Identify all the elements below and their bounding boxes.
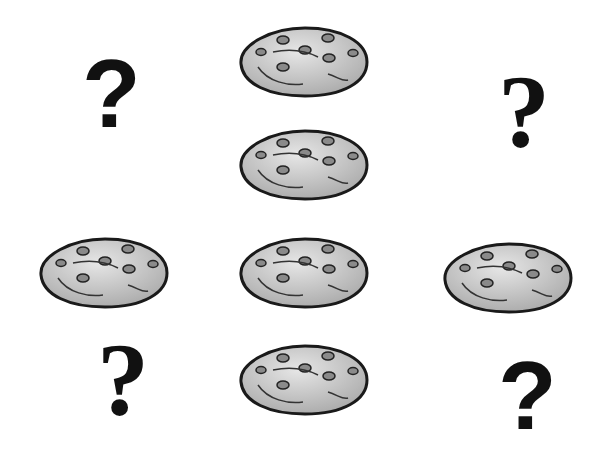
cookie-icon: [33, 233, 173, 313]
question-mark-top-right: ?: [498, 60, 550, 164]
cookie-icon: [437, 238, 577, 318]
question-mark-top-left: ?: [82, 46, 141, 142]
cookie-icon: [233, 22, 373, 102]
question-mark-bottom-left: ?: [97, 328, 149, 432]
question-mark-bottom-right: ?: [498, 348, 557, 444]
cookie-icon: [233, 125, 373, 205]
cookie-icon: [233, 233, 373, 313]
cookie-icon: [233, 340, 373, 420]
